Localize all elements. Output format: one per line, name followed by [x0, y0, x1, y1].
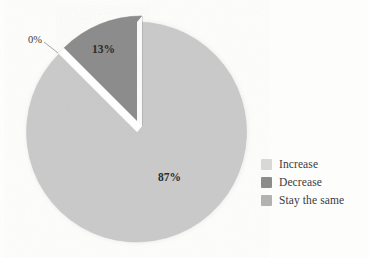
legend-swatch-increase	[261, 159, 272, 170]
legend-swatch-stay-the-same	[261, 195, 272, 206]
pie-chart-canvas	[0, 0, 369, 258]
chart-legend: Increase Decrease Stay the same	[261, 157, 365, 211]
legend-label-stay-the-same: Stay the same	[279, 194, 344, 206]
slice-label-decrease: 13%	[92, 43, 115, 55]
legend-label-increase: Increase	[279, 158, 318, 170]
legend-label-decrease: Decrease	[279, 176, 322, 188]
legend-swatch-decrease	[261, 177, 272, 188]
legend-item-decrease: Decrease	[261, 175, 365, 189]
pie-chart-figure: 0% 13% 87% Increase Decrease Stay the sa…	[0, 0, 369, 258]
slice-label-stay-the-same: 87%	[158, 171, 181, 183]
legend-item-increase: Increase	[261, 157, 365, 171]
leader-line-zero-percent	[44, 42, 58, 53]
legend-item-stay-the-same: Stay the same	[261, 193, 365, 207]
slice-label-increase: 0%	[28, 34, 42, 45]
